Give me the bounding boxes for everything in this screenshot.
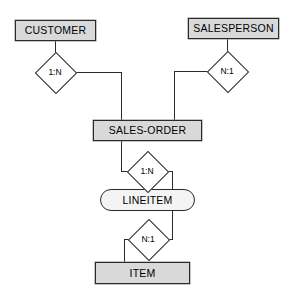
entity-customer[interactable]: CUSTOMER <box>15 20 96 41</box>
entity-salesperson-label: SALESPERSON <box>193 23 273 34</box>
entity-customer-label: CUSTOMER <box>25 25 87 36</box>
er-diagram-canvas: CUSTOMER SALESPERSON SALES-ORDER LINEITE… <box>0 0 295 300</box>
connector-sales-order-relationship <box>121 141 128 171</box>
entity-sales-order[interactable]: SALES-ORDER <box>93 120 202 141</box>
relationship-sales-order-salesperson[interactable]: N:1 <box>208 52 246 90</box>
relationship-customer-sales-order[interactable]: 1:N <box>36 53 74 91</box>
connector-relationship-sales-order-right <box>174 71 208 120</box>
relationship-customer-sales-order-label: 1:N <box>36 53 74 91</box>
connector-relationship-sales-order <box>69 72 121 120</box>
relationship-sales-order-salesperson-label: N:1 <box>208 52 246 90</box>
relationship-lineitem-item[interactable]: N:1 <box>129 220 167 258</box>
entity-item-label: ITEM <box>130 268 156 279</box>
entity-salesperson[interactable]: SALESPERSON <box>188 18 279 39</box>
relationship-sales-order-lineitem-label: 1:N <box>128 152 166 190</box>
entity-lineitem-label: LINEITEM <box>122 195 172 206</box>
relationship-sales-order-lineitem[interactable]: 1:N <box>128 152 166 190</box>
entity-item[interactable]: ITEM <box>95 262 190 284</box>
entity-sales-order-label: SALES-ORDER <box>109 125 186 136</box>
relationship-lineitem-item-label: N:1 <box>129 220 167 258</box>
